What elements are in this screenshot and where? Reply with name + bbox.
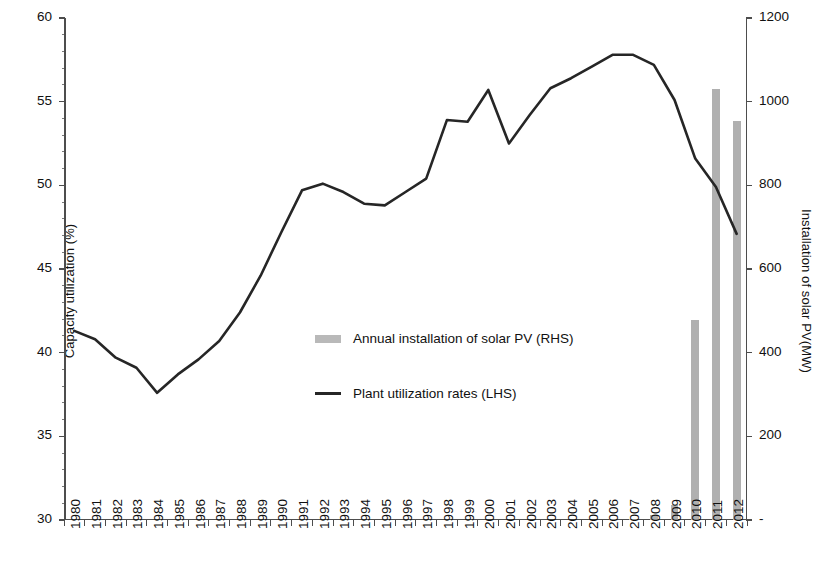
x-axis-tick — [105, 520, 106, 526]
x-axis-tick — [581, 520, 582, 526]
x-axis-tick-label: 1981 — [89, 499, 104, 529]
x-axis-tick — [664, 520, 665, 526]
x-axis-tick — [622, 520, 623, 526]
plot-area — [64, 18, 747, 520]
y-axis-right-tick-label: 600 — [759, 260, 803, 275]
x-axis-tick — [167, 520, 168, 526]
x-axis-tick — [229, 520, 230, 526]
x-axis-tick — [747, 520, 748, 526]
y-axis-left-tick-label: 50 — [12, 176, 52, 191]
x-axis-tick-label: 1996 — [400, 499, 415, 529]
x-axis-tick — [726, 520, 727, 526]
x-axis-tick — [208, 520, 209, 526]
x-axis-tick — [146, 520, 147, 526]
x-axis-tick — [540, 520, 541, 526]
x-axis-tick-label: 2003 — [544, 499, 559, 529]
x-axis-tick-label: 2012 — [731, 499, 746, 529]
x-axis-tick — [84, 520, 85, 526]
x-axis-tick-label: 1990 — [275, 499, 290, 529]
x-axis-tick — [395, 520, 396, 526]
x-axis-tick — [291, 520, 292, 526]
x-axis-tick-label: 1993 — [337, 499, 352, 529]
y-axis-left-tick-label: 60 — [12, 9, 52, 24]
x-axis-tick-label: 2001 — [503, 499, 518, 529]
x-axis-tick — [436, 520, 437, 526]
x-axis-tick — [188, 520, 189, 526]
x-axis-tick-label: 1992 — [317, 499, 332, 529]
x-axis-tick-label: 2006 — [606, 499, 621, 529]
x-axis-tick — [705, 520, 706, 526]
x-axis-tick — [602, 520, 603, 526]
y-axis-left-tick-label: 30 — [12, 511, 52, 526]
x-axis-tick-label: 1983 — [130, 499, 145, 529]
x-axis-tick — [353, 520, 354, 526]
x-axis-tick-label: 2010 — [689, 499, 704, 529]
x-axis-tick-label: 2004 — [565, 499, 580, 529]
legend-item-solar-pv[interactable]: Annual installation of solar PV (RHS) — [315, 331, 574, 346]
x-axis-tick — [498, 520, 499, 526]
x-axis-tick — [270, 520, 271, 526]
x-axis-tick-label: 1982 — [110, 499, 125, 529]
y-axis-left-tick-label: 45 — [12, 260, 52, 275]
x-axis-tick-label: 1997 — [420, 499, 435, 529]
legend-item-plant-utilization[interactable]: Plant utilization rates (LHS) — [315, 386, 517, 401]
legend-label-plant-utilization: Plant utilization rates (LHS) — [353, 386, 517, 401]
x-axis-tick-label: 2007 — [627, 499, 642, 529]
x-axis-tick — [333, 520, 334, 526]
y-axis-right-tick-label: 800 — [759, 176, 803, 191]
x-axis-tick-label: 1989 — [255, 499, 270, 529]
x-axis-tick-label: 1994 — [358, 499, 373, 529]
y-axis-left-tick-label: 55 — [12, 93, 52, 108]
x-axis-tick-label: 2011 — [710, 500, 725, 529]
legend-line-swatch-icon — [315, 392, 341, 395]
line-series — [64, 18, 747, 520]
x-axis-tick — [415, 520, 416, 526]
x-axis-tick — [64, 520, 65, 526]
y-axis-right-tick-label: 200 — [759, 427, 803, 442]
x-axis-tick-label: 2002 — [524, 499, 539, 529]
x-axis-tick — [684, 520, 685, 526]
x-axis-tick-label: 1985 — [172, 499, 187, 529]
y-axis-left-tick-label: 40 — [12, 344, 52, 359]
y-axis-left-tick-label: 35 — [12, 427, 52, 442]
x-axis-tick — [643, 520, 644, 526]
x-axis-tick-label: 1995 — [379, 499, 394, 529]
legend-label-solar-pv: Annual installation of solar PV (RHS) — [353, 331, 574, 346]
x-axis-tick-label: 1991 — [296, 499, 311, 529]
x-axis-tick — [250, 520, 251, 526]
x-axis-tick — [457, 520, 458, 526]
y-axis-right-tick-label: 400 — [759, 344, 803, 359]
y-axis-right-tick-label: 1200 — [759, 9, 803, 24]
x-axis-tick-label: 1986 — [193, 499, 208, 529]
y-axis-right-tick-label: - — [759, 511, 803, 526]
x-axis-tick — [519, 520, 520, 526]
x-axis-tick — [312, 520, 313, 526]
legend-bar-swatch-icon — [315, 335, 341, 343]
x-axis-tick-label: 1988 — [234, 499, 249, 529]
x-axis-tick-label: 1987 — [213, 499, 228, 529]
x-axis-tick-label: 2009 — [669, 499, 684, 529]
x-axis-tick-label: 1980 — [68, 499, 83, 529]
x-axis-tick-label: 1984 — [151, 499, 166, 529]
x-axis-tick — [126, 520, 127, 526]
x-axis-tick-label: 2005 — [586, 499, 601, 529]
x-axis-tick-label: 2008 — [648, 499, 663, 529]
chart-container: Capacity utilization (%) Installation of… — [0, 0, 827, 581]
x-axis-tick-label: 1999 — [462, 499, 477, 529]
x-axis-tick — [374, 520, 375, 526]
x-axis-tick — [560, 520, 561, 526]
x-axis-tick-label: 2000 — [482, 499, 497, 529]
y-axis-right-tick-label: 1000 — [759, 93, 803, 108]
x-axis-tick-label: 1998 — [441, 499, 456, 529]
x-axis-tick — [477, 520, 478, 526]
